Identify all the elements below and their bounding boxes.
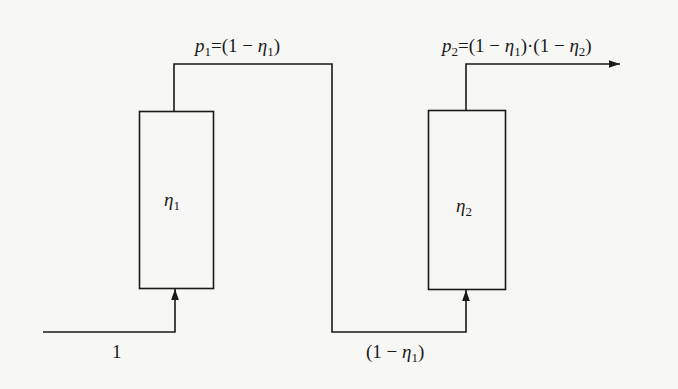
p-var: p [195, 35, 205, 56]
input-flow-arrow [43, 289, 175, 332]
expr-text: =(1 − [211, 35, 258, 56]
eta-symbol: η [505, 35, 514, 56]
expr-text: ) [418, 341, 424, 362]
eta-index: 1 [411, 350, 418, 365]
p-var: p [442, 35, 452, 56]
eta-index: 1 [173, 198, 180, 213]
eta-index: 2 [579, 44, 586, 59]
intermediate-flow-label: (1 − η1) [366, 342, 424, 361]
p-index: 1 [205, 44, 212, 59]
eta-symbol: η [258, 35, 267, 56]
eta-index: 1 [267, 44, 274, 59]
expr-text: ) [585, 35, 591, 56]
stage-1-label: η1 [164, 190, 180, 209]
eta-index: 2 [465, 204, 472, 219]
flow-diagram [0, 0, 678, 389]
p1-label: p1=(1 − η1) [195, 36, 280, 55]
input-label: 1 [112, 342, 122, 361]
p2-output-arrow [466, 64, 620, 110]
eta-index: 1 [514, 44, 521, 59]
eta-symbol: η [569, 35, 578, 56]
p-index: 2 [452, 44, 459, 59]
p2-label: p2=(1 − η1)·(1 − η2) [442, 36, 592, 55]
expr-text: (1 − [533, 35, 569, 56]
expr-text: =(1 − [458, 35, 505, 56]
expr-text: ) [274, 35, 280, 56]
expr-text: (1 − [366, 341, 402, 362]
expr-text: )· [521, 35, 534, 56]
p1-flow-line [174, 64, 466, 332]
diagram-canvas: η1 η2 p1=(1 − η1) p2=(1 − η1)·(1 − η2) 1… [0, 0, 678, 389]
stage-2-label: η2 [456, 196, 472, 215]
